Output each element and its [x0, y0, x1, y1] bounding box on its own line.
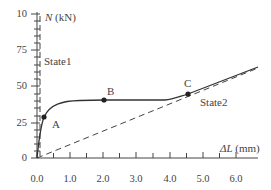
- y-tick-label: 50: [3, 81, 27, 92]
- x-tick-label: 3.0: [129, 174, 142, 185]
- point-c: [185, 91, 190, 96]
- chart-canvas: [0, 0, 271, 190]
- point-a: [41, 114, 46, 119]
- state1-label: State1: [44, 56, 72, 67]
- x-tick-label: 4.0: [163, 174, 176, 185]
- point-a-label: A: [52, 119, 60, 130]
- x-axis-ticks: [37, 152, 236, 158]
- x-tick-label: 5.0: [196, 174, 209, 185]
- x-axis-label: ΔL (mm): [220, 143, 260, 154]
- y-axis-ticks: [31, 14, 40, 158]
- point-c-label: C: [184, 78, 191, 89]
- x-tick-label: 1.0: [63, 174, 76, 185]
- y-tick-label: 0: [3, 153, 27, 164]
- y-tick-label: 10: [3, 9, 27, 20]
- point-b: [101, 97, 106, 102]
- x-tick-label: 6.0: [229, 174, 242, 185]
- point-b-label: B: [107, 86, 114, 97]
- y-tick-label: 25: [3, 118, 27, 129]
- x-tick-label: 2.0: [96, 174, 109, 185]
- x-tick-label: 0.0: [30, 174, 43, 185]
- y-tick-label: 75: [3, 45, 27, 56]
- y-axis-label: N (kN): [45, 12, 76, 23]
- state2-label: State2: [200, 97, 228, 108]
